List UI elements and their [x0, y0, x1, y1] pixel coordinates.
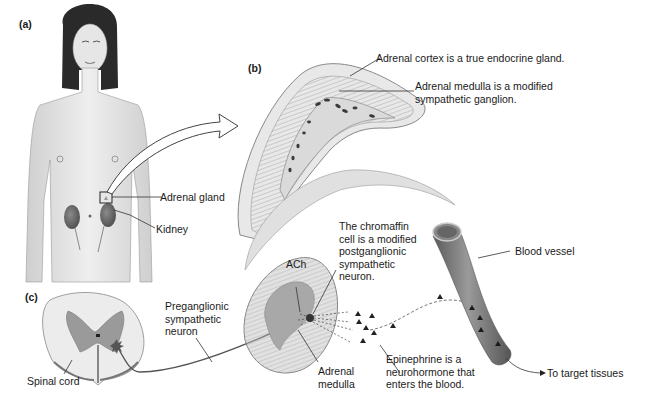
label-adrenal-cortex: Adrenal cortex is a true endocrine gland… — [376, 52, 565, 65]
label-preganglionic-neuron: Preganglionic sympathetic neuron — [165, 300, 229, 338]
label-epinephrine: Epinephrine is a neurohormone that enter… — [386, 353, 475, 391]
label-chromaffin-line3: postganglionic — [339, 245, 417, 258]
label-target-tissues: To target tissues — [547, 367, 623, 380]
label-epinephrine-line3: enters the blood. — [386, 378, 475, 391]
label-preganglionic-line1: Preganglionic — [165, 300, 229, 313]
panel-label-b: (b) — [248, 62, 261, 74]
label-spinal-cord: Spinal cord — [27, 375, 80, 388]
spinal-cord-cross-section — [43, 293, 144, 386]
label-chromaffin-line4: sympathetic — [339, 258, 417, 271]
label-preganglionic-line3: neuron — [165, 325, 229, 338]
label-adrenal-gland: Adrenal gland — [160, 191, 225, 204]
label-epinephrine-line1: Epinephrine is a — [386, 353, 475, 366]
label-epinephrine-line2: neurohormone that — [386, 366, 475, 379]
panel-label-c: (c) — [25, 291, 38, 303]
label-adrenal-medulla-b-line2: sympathetic ganglion. — [415, 93, 553, 106]
label-adrenal-medulla-c: Adrenal medulla — [318, 365, 355, 390]
label-kidney: Kidney — [156, 223, 188, 236]
human-torso-illustration — [26, 4, 152, 282]
label-chromaffin-line2: cell is a modified — [339, 233, 417, 246]
label-ach: ACh — [286, 258, 306, 271]
adrenal-medulla-illustration — [244, 258, 353, 373]
label-adrenal-medulla-b: Adrenal medulla is a modified sympatheti… — [415, 80, 553, 105]
label-chromaffin-line5: neuron. — [339, 270, 417, 283]
panel-label-a: (a) — [19, 18, 32, 30]
label-preganglionic-line2: sympathetic — [165, 313, 229, 326]
label-adrenal-medulla-b-line1: Adrenal medulla is a modified — [415, 80, 553, 93]
epinephrine-molecules — [355, 294, 443, 343]
label-chromaffin-line1: The chromaffin — [339, 220, 417, 233]
clipped-figure-caption — [0, 403, 647, 411]
label-chromaffin-cell: The chromaffin cell is a modified postga… — [339, 220, 417, 283]
label-adrenal-medulla-c-line1: Adrenal — [318, 365, 355, 378]
label-adrenal-medulla-c-line2: medulla — [318, 378, 355, 391]
label-blood-vessel: Blood vessel — [515, 245, 575, 258]
